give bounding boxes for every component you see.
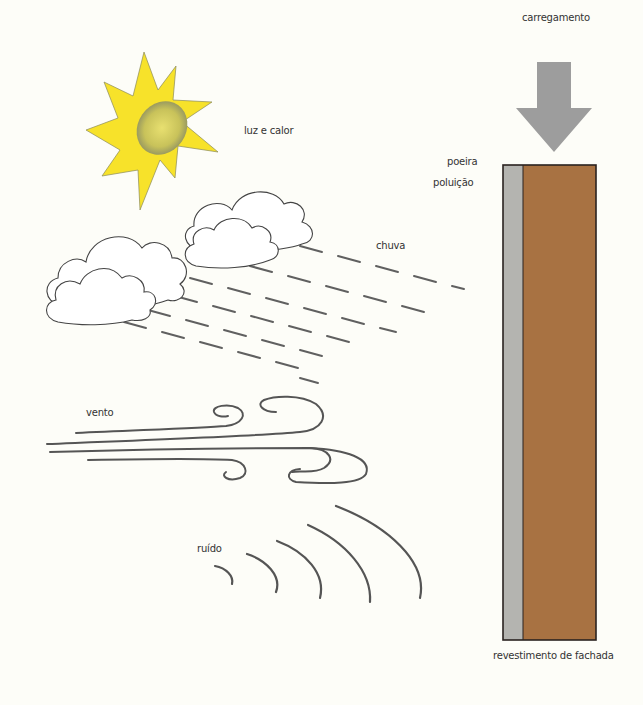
noise-waves-icon	[215, 506, 421, 602]
cloud-icon	[47, 192, 313, 325]
label-sun: luz e calor	[244, 125, 293, 136]
load-arrow-icon	[516, 62, 592, 152]
sun-icon	[86, 52, 218, 210]
label-wind: vento	[86, 407, 113, 418]
label-noise: ruído	[197, 543, 222, 554]
label-facade: revestimento de fachada	[493, 650, 614, 661]
label-dust: poeira	[447, 156, 477, 167]
diagram-canvas	[0, 0, 643, 705]
label-pollution: poluição	[433, 177, 474, 188]
label-rain: chuva	[376, 240, 405, 251]
facade-wall-section	[503, 165, 596, 640]
label-load: carregamento	[522, 12, 590, 23]
